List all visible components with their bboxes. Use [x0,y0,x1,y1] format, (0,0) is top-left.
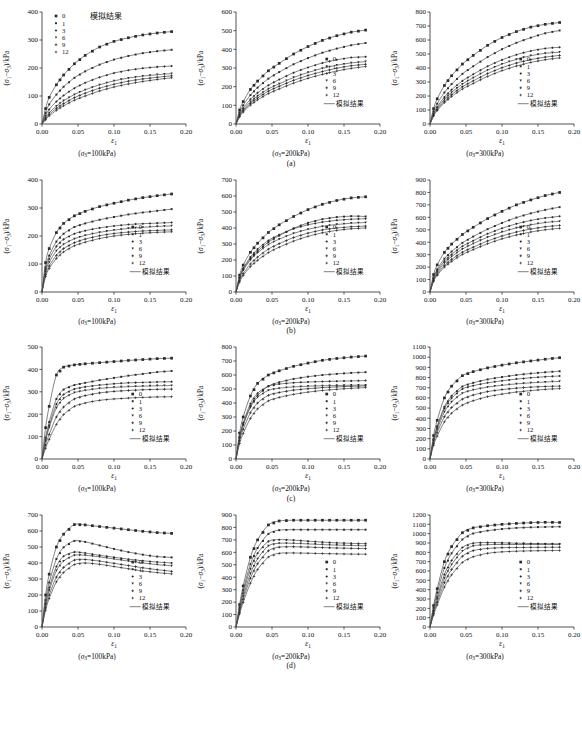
series-6 [236,221,367,292]
legend-label-3: 3 [527,70,531,77]
svg-text:0.15: 0.15 [144,128,157,136]
legend-label-3: 3 [527,237,531,244]
svg-text:0.20: 0.20 [568,295,581,303]
legend-label-6: 6 [527,77,531,84]
svg-text:200: 200 [416,435,427,443]
svg-text:0.10: 0.10 [302,128,315,136]
series-12 [42,230,173,292]
row-label-1: (b) [0,326,582,335]
svg-text:200: 200 [28,591,39,599]
series-1 [430,525,561,626]
svg-text:700: 700 [222,536,233,544]
legend-label-9: 9 [333,587,337,594]
series-12 [42,395,173,459]
y-axis-label: (σ1−σ3)/kPa [2,552,12,587]
svg-text:0.05: 0.05 [460,630,473,638]
series-3 [430,375,561,459]
svg-text:0.00: 0.00 [230,128,243,136]
legend-label-1: 1 [62,20,65,27]
svg-text:0.10: 0.10 [302,463,315,471]
chart-row-d: 01002003004005006007000.000.050.100.150.… [0,503,582,671]
svg-text:900: 900 [222,511,233,519]
x-axis-label: ε1 [305,136,311,146]
series-9 [430,545,561,626]
svg-text:100: 100 [28,260,39,268]
legend-label-12: 12 [333,426,340,433]
svg-text:0.05: 0.05 [72,128,85,136]
legend-label-0: 0 [527,558,531,565]
svg-text:0.15: 0.15 [338,128,351,136]
legend-label-1: 1 [527,63,530,70]
legend-label-1: 1 [333,398,336,405]
legend-label-0: 0 [333,390,337,397]
panel-caption-a-200: (σ3=200kPa) [194,150,388,159]
plot-area-c-100: 01002003004005000.000.050.100.150.20(σ1−… [0,335,194,485]
y-axis-label: (σ1−σ3)/kPa [2,217,12,252]
svg-text:400: 400 [222,224,233,232]
legend-label-9: 9 [527,587,531,594]
series-1 [430,30,561,125]
legend-label-3: 3 [139,572,143,579]
chart-panel-d-300: 0100200300400500600700800900100011001200… [388,503,582,662]
legend-label-6: 6 [333,412,337,419]
svg-text:700: 700 [416,557,427,565]
svg-text:800: 800 [416,548,427,556]
x-axis-label: ε1 [499,304,505,314]
svg-text:400: 400 [28,176,39,184]
legend-label-0: 0 [333,55,337,62]
legend: 0136912模拟结果 [55,11,122,55]
svg-text:400: 400 [416,415,427,423]
legend-label-1: 1 [333,63,336,70]
series-0 [236,355,367,459]
svg-text:200: 200 [28,411,39,419]
chart-row-c: 01002003004005000.000.050.100.150.20(σ1−… [0,335,582,503]
legend-label-9: 9 [139,419,143,426]
x-axis-ticks: 0.000.050.100.150.20 [230,459,387,471]
series-12 [430,226,561,291]
legend-label-1: 1 [139,398,142,405]
x-axis-ticks: 0.000.050.100.150.20 [230,124,387,136]
series-9 [42,558,173,627]
svg-text:900: 900 [416,539,427,547]
series-9 [236,545,367,627]
panel-caption-a-300: (σ3=300kPa) [388,150,582,159]
x-axis-ticks: 0.000.050.100.150.20 [424,124,581,136]
svg-text:100: 100 [222,610,233,618]
y-axis-ticks: 0100200300400500600700800900 [416,176,431,296]
series-9 [42,388,173,459]
legend-label-simulation: 模拟结果 [142,434,170,443]
x-axis-label: ε1 [499,471,505,481]
y-axis-label: (σ1−σ3)/kPa [2,50,12,85]
y-axis-label: (σ1−σ3)/kPa [390,385,400,420]
y-axis-ticks: 0100200300400500600700800 [222,343,237,463]
svg-text:0.05: 0.05 [460,295,473,303]
y-axis-ticks: 0100200300400 [28,8,43,128]
svg-text:0.05: 0.05 [266,128,279,136]
svg-text:0.00: 0.00 [36,128,49,136]
legend-label-6: 6 [139,412,143,419]
series-3 [430,541,561,627]
svg-text:0.10: 0.10 [108,463,121,471]
legend-label-6: 6 [527,579,531,586]
svg-text:0.00: 0.00 [424,295,437,303]
chart-svg-d-200: 01002003004005006007008009000.000.050.10… [194,503,388,653]
plot-area-d-100: 01002003004005006007000.000.050.100.150.… [0,503,194,653]
plot-area-b-200: 01002003004005006007000.000.050.100.150.… [194,168,388,318]
svg-text:500: 500 [222,27,233,35]
svg-text:400: 400 [416,64,427,72]
svg-text:0.05: 0.05 [266,295,279,303]
svg-text:700: 700 [28,511,39,519]
svg-text:0.15: 0.15 [144,295,157,303]
svg-text:500: 500 [222,208,233,216]
x-axis-ticks: 0.000.050.100.150.20 [230,627,387,639]
legend-label-0: 0 [527,55,531,62]
panel-caption-b-300: (σ3=300kPa) [388,318,582,327]
svg-text:1100: 1100 [412,520,426,528]
panel-caption-b-100: (σ3=100kPa) [0,318,194,327]
svg-text:0.00: 0.00 [230,295,243,303]
plot-area-b-100: 01002003004000.000.050.100.150.20(σ1−σ3)… [0,168,194,318]
chart-panel-b-200: 01002003004005006007000.000.050.100.150.… [194,168,388,327]
svg-text:0.15: 0.15 [338,295,351,303]
x-axis-label: ε1 [111,136,117,146]
svg-text:0.15: 0.15 [338,630,351,638]
